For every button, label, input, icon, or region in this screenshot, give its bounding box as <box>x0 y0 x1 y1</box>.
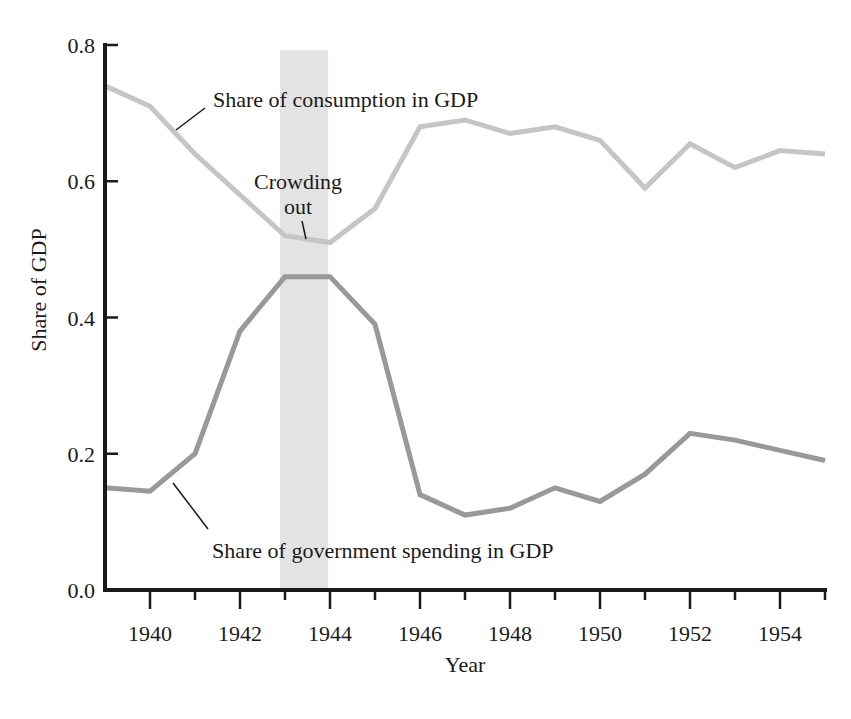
x-tick-label: 1954 <box>758 621 802 646</box>
y-tick-label: 0.2 <box>68 442 96 467</box>
consumption-line-label: Share of consumption in GDP <box>213 87 478 112</box>
x-tick-label: 1942 <box>218 621 262 646</box>
x-tick-label: 1952 <box>668 621 712 646</box>
tick-layer <box>105 45 825 609</box>
crowding-out-label-line2: out <box>284 194 312 219</box>
y-tick-label: 0.4 <box>68 306 96 331</box>
x-tick-label: 1944 <box>308 621 352 646</box>
crowding-out-chart: 0.00.20.40.60.81940194219441946194819501… <box>0 0 851 719</box>
annotations: Share of consumption in GDP Crowding out… <box>173 87 554 563</box>
government-pointer-line <box>173 483 208 529</box>
crowding-out-label-line1: Crowding <box>254 169 342 194</box>
series-layer <box>105 86 825 515</box>
government-spending-line <box>105 277 825 515</box>
y-tick-label: 0.0 <box>68 578 96 603</box>
y-axis-title: Share of GDP <box>26 228 51 351</box>
crowding-out-band <box>280 50 328 590</box>
consumption-pointer-line <box>176 108 205 130</box>
y-tick-label: 0.8 <box>68 33 96 58</box>
x-axis-title: Year <box>445 652 486 677</box>
axes <box>103 43 827 592</box>
crowding-out-figure: 0.00.20.40.60.81940194219441946194819501… <box>0 0 851 719</box>
highlight-band-layer <box>280 50 328 590</box>
government-line-label: Share of government spending in GDP <box>212 538 554 563</box>
x-tick-label: 1946 <box>398 621 442 646</box>
x-tick-label: 1948 <box>488 621 532 646</box>
x-tick-label: 1940 <box>128 621 172 646</box>
x-tick-label: 1950 <box>578 621 622 646</box>
y-tick-label: 0.6 <box>68 169 96 194</box>
